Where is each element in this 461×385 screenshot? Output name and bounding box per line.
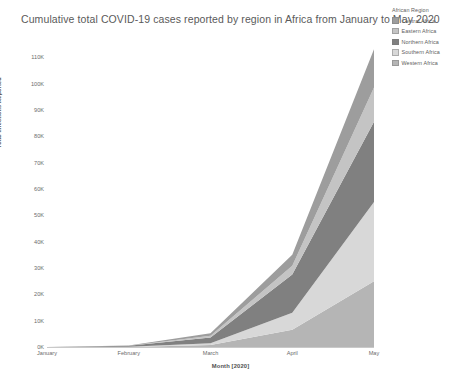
x-axis-ticks: JanuaryFebruaryMarchAprilMay [47, 350, 374, 362]
y-tick-label: 90K [34, 107, 44, 113]
x-tick-label: March [203, 350, 219, 356]
y-tick-label: 80K [34, 133, 44, 139]
legend-item-southern-africa[interactable]: Southern Africa [392, 48, 460, 57]
x-axis-line [47, 347, 374, 348]
legend-item-northern-africa[interactable]: Northern Africa [392, 37, 460, 46]
y-tick-label: 30K [34, 265, 44, 271]
legend-label: Western Africa [402, 60, 438, 66]
legend-item-central-africa[interactable]: Central Africa [392, 16, 460, 25]
x-tick-label: January [37, 350, 57, 356]
legend-swatch-icon [392, 60, 399, 67]
y-tick-label: 70K [34, 160, 44, 166]
legend-label: Northern Africa [402, 39, 439, 45]
legend: African Region Central Africa Eastern Af… [392, 7, 460, 69]
legend-title: African Region [392, 7, 460, 13]
legend-label: Eastern Africa [402, 28, 437, 34]
legend-swatch-icon [392, 28, 399, 35]
chart-title: Cumulative total COVID-19 cases reported… [21, 13, 440, 25]
y-tick-label: 60K [34, 186, 44, 192]
plot-area [47, 44, 374, 347]
y-axis-ticks: 0K10K20K30K40K50K60K70K80K90K100K110K [18, 44, 44, 347]
legend-item-eastern-africa[interactable]: Eastern Africa [392, 27, 460, 36]
y-axis-title: Total Infections Reported [0, 77, 2, 148]
x-tick-label: February [118, 350, 140, 356]
y-tick-label: 100K [31, 81, 44, 87]
y-tick-label: 10K [34, 318, 44, 324]
chart-container: Cumulative total COVID-19 cases reported… [0, 0, 461, 385]
legend-label: Southern Africa [402, 49, 440, 55]
legend-swatch-icon [392, 17, 399, 24]
y-tick-label: 50K [34, 212, 44, 218]
legend-swatch-icon [392, 49, 399, 56]
y-tick-label: 40K [34, 239, 44, 245]
y-tick-label: 20K [34, 291, 44, 297]
x-tick-label: May [369, 350, 380, 356]
x-tick-label: April [287, 350, 298, 356]
legend-label: Central Africa [402, 18, 436, 24]
x-axis-title: Month [2020] [0, 363, 461, 369]
y-tick-label: 110K [31, 54, 44, 60]
legend-item-western-africa[interactable]: Western Africa [392, 58, 460, 67]
stacked-area-plot [47, 44, 374, 347]
legend-swatch-icon [392, 39, 399, 46]
